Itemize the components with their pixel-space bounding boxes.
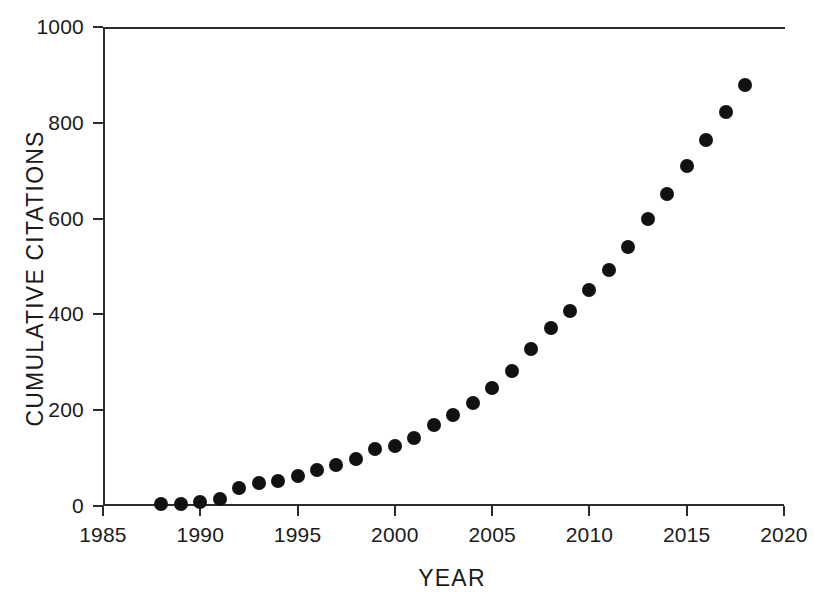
citations-scatter-figure: 02004006008001000 1985199019952000200520… [0,0,814,604]
x-axis-title: YEAR [0,565,814,592]
x-axis-tick: 2015 [686,506,688,516]
data-point [291,469,305,483]
data-point [174,497,188,511]
data-point [680,159,694,173]
x-axis-tick-label: 2015 [663,523,711,547]
x-axis-tick-label: 2020 [760,523,808,547]
data-point [232,481,246,495]
data-point [349,452,363,466]
y-axis-title: CUMULATIVE CITATIONS [22,69,49,489]
data-point [505,364,519,378]
data-point [641,212,655,226]
data-point [719,105,733,119]
x-axis-title-text: YEAR [328,565,485,591]
data-point [524,342,538,356]
y-axis-tick-label: 400 [48,302,84,326]
data-point [563,304,577,318]
y-axis-tick: 400 [93,313,103,315]
x-axis-tick-label: 2005 [468,523,516,547]
y-axis-tick-label: 1000 [36,15,84,39]
x-axis-tick-label: 1990 [177,523,225,547]
plot-area [103,27,784,506]
plot-frame-corner [783,27,785,29]
x-axis-tick-label: 2010 [566,523,614,547]
data-point [252,476,266,490]
y-axis-tick: 800 [93,122,103,124]
x-axis-tick: 2005 [491,506,493,516]
data-point [193,495,207,509]
x-axis-tick: 1985 [102,506,104,516]
x-axis-tick-label: 2000 [371,523,419,547]
data-point [466,396,480,410]
data-point [485,381,499,395]
data-point [310,463,324,477]
y-axis-tick-label: 0 [72,494,84,518]
data-point [213,492,227,506]
x-axis-tick: 2010 [588,506,590,516]
x-axis-tick-label: 1995 [274,523,322,547]
data-point [407,431,421,445]
x-axis-tick: 2000 [394,506,396,516]
data-point [660,187,674,201]
data-point [154,497,168,511]
y-axis-tick-label: 800 [48,111,84,135]
data-point [427,418,441,432]
y-axis-tick-label: 200 [48,398,84,422]
y-axis-tick: 200 [93,409,103,411]
data-point [388,439,402,453]
y-axis-tick-label: 600 [48,207,84,231]
data-point [699,133,713,147]
y-axis-tick: 1000 [93,26,103,28]
x-axis-tick: 2020 [783,506,785,516]
x-axis-tick: 1995 [297,506,299,516]
data-point [544,321,558,335]
x-axis-tick-label: 1985 [79,523,127,547]
y-axis-tick: 600 [93,218,103,220]
